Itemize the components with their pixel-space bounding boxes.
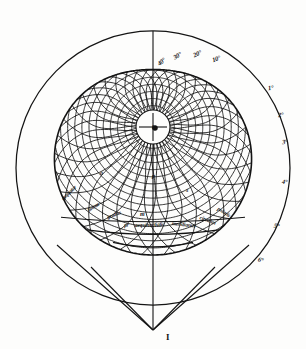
figure-root: 10°20°30°40°1°2°3°4°5°6°hpsmoaequatorlin… [0,0,306,349]
projection-diagram [0,0,306,349]
pole-marker [136,110,170,144]
